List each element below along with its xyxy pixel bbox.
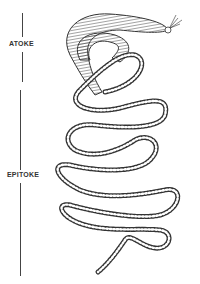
head [165,27,171,33]
worm-illustration [0,0,200,284]
epitoke-body-inner [58,55,178,272]
